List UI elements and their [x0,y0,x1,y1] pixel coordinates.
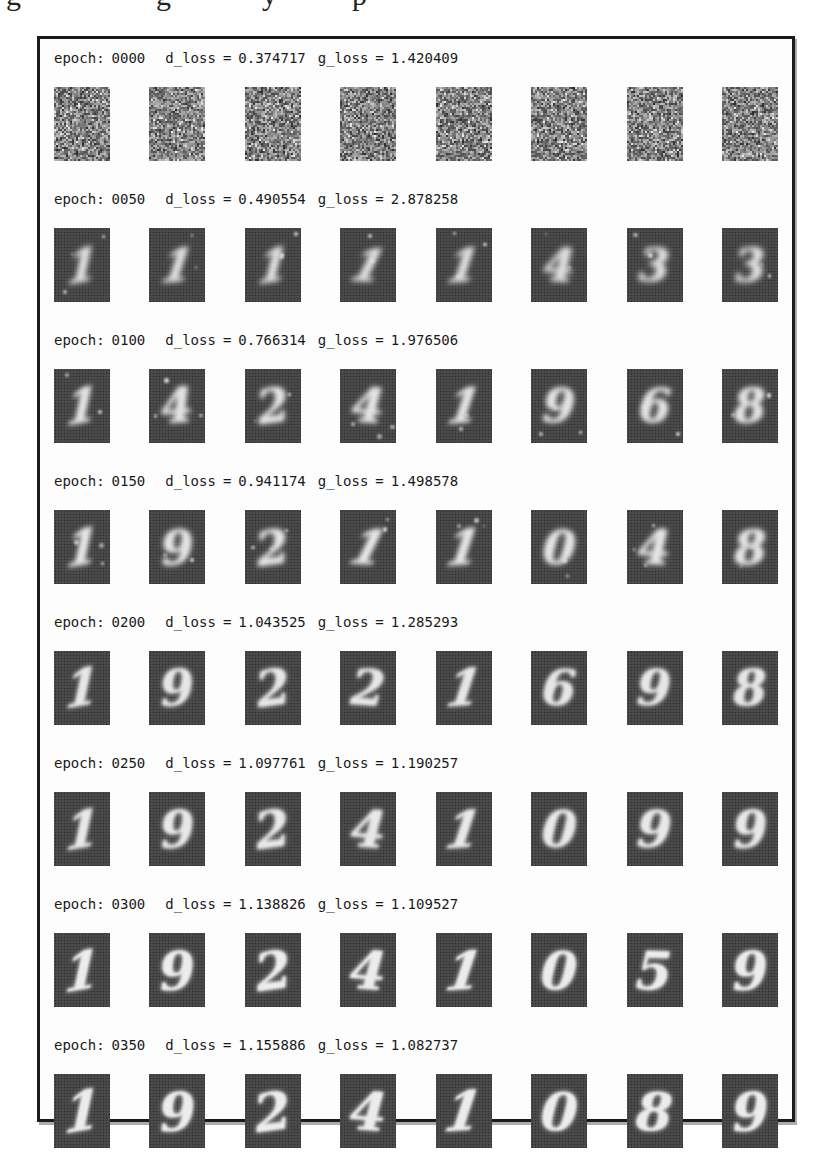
generated-digit-tile: 1 [436,651,492,725]
noise-speck [377,434,382,439]
generated-digit-tile: 1 [54,1074,110,1148]
equals-sign: = [375,755,383,771]
d-loss-value: 1.155886 [238,1037,305,1053]
generated-digit: 1 [441,938,486,1002]
generated-digit: 2 [349,658,387,718]
generated-digit-tile: 1 [54,933,110,1007]
equals-sign: = [223,896,231,912]
epoch-value: 0050 [112,191,146,207]
g-loss-value: 1.498578 [391,473,458,489]
noise-image [531,87,587,161]
generated-digit-tile: 8 [627,1074,683,1148]
generated-digit: 8 [635,1079,674,1142]
cropped-caption-fragment: p [352,0,367,12]
equals-sign: = [223,473,231,489]
generated-digit-tile: 9 [149,792,205,866]
d-loss-label: d_loss [165,896,216,912]
d-loss-label: d_loss [165,332,216,348]
g-loss-label: g_loss [318,191,369,207]
equals-sign: = [223,1037,231,1053]
equals-sign: = [375,473,383,489]
generated-digit-tile: 0 [531,510,587,584]
generated-digit: 9 [636,799,673,859]
generated-digit-tile: 4 [340,933,396,1007]
generated-digit-tile: 0 [531,933,587,1007]
noise-speck [483,525,485,527]
noise-speck [71,253,73,255]
generated-digit-tile: 6 [627,369,683,443]
generated-digit: 0 [539,939,578,1002]
g-loss-label: g_loss [318,50,369,66]
noise-speck [288,393,290,395]
epoch-section: epoch:0300d_loss=1.138826g_loss=1.109527… [52,896,780,1030]
noise-speck [648,253,653,258]
noise-speck [251,546,254,549]
d-loss-value: 0.374717 [238,50,305,66]
noise-speck [351,422,354,425]
generated-samples-row: 19221698 [52,651,780,725]
noise-image [149,87,205,161]
generated-digit: 3 [638,239,670,291]
epoch-section: epoch:0150d_loss=0.941174g_loss=1.498578… [52,473,780,607]
epoch-value: 0100 [112,332,146,348]
generated-digit: 1 [256,237,290,293]
noise-speck [633,548,635,550]
generated-digit-tile: 3 [627,228,683,302]
epoch-header: epoch:0150d_loss=0.941174g_loss=1.498578 [54,473,780,489]
epoch-value: 0000 [112,50,146,66]
generated-digit-tile: 1 [436,1074,492,1148]
generated-digit: 4 [348,1079,389,1143]
generated-digit-tile: 4 [627,510,683,584]
generated-digit-tile: 4 [340,792,396,866]
generated-digit-tile: 1 [340,510,396,584]
generated-digit: 6 [541,658,578,718]
epoch-section: epoch:0200d_loss=1.043525g_loss=1.285293… [52,614,780,748]
generated-digit-tile: 6 [531,651,587,725]
noise-sample-tile [149,87,205,161]
generated-digit-tile: 9 [722,933,778,1007]
generated-digit: 9 [157,1079,198,1143]
cropped-caption-fragment: y [262,0,277,12]
generated-digit-tile: 4 [531,228,587,302]
d-loss-value: 1.043525 [238,614,305,630]
generated-digit: 8 [731,658,768,718]
generated-digit-tile: 1 [54,651,110,725]
epoch-value: 0350 [112,1037,146,1053]
noise-sample-tile [627,87,683,161]
d-loss-value: 1.097761 [238,755,305,771]
noise-speck [101,562,104,565]
generated-digit-tile: 1 [436,228,492,302]
generated-digit-tile: 1 [340,228,396,302]
generated-digit: 1 [442,798,485,860]
generated-digit: 9 [731,799,769,860]
generated-digit: 9 [159,518,195,575]
generated-digit: 1 [64,655,100,720]
d-loss-label: d_loss [165,614,216,630]
generated-digit: 9 [636,658,672,717]
noise-speck [65,373,69,377]
cropped-caption: ggyp [0,0,828,13]
epoch-label: epoch: [54,1037,105,1053]
generated-digit-tile: 3 [722,228,778,302]
generated-digit: 9 [157,938,197,1001]
noise-speck [566,574,569,577]
generated-digit-tile: 9 [149,933,205,1007]
g-loss-value: 1.190257 [391,755,458,771]
generated-digit: 4 [542,239,575,292]
generated-samples-row: 19241099 [52,792,780,866]
noise-speck [545,233,547,235]
epoch-header: epoch:0100d_loss=0.766314g_loss=1.976506 [54,332,780,348]
g-loss-value: 1.976506 [391,332,458,348]
generated-samples-row: 14241968 [52,369,780,443]
generated-digit-tile: 4 [340,369,396,443]
generated-digit: 9 [730,1079,770,1143]
d-loss-value: 0.490554 [238,191,305,207]
generated-digit-tile: 1 [54,792,110,866]
epoch-label: epoch: [54,473,105,489]
g-loss-label: g_loss [318,755,369,771]
generated-digit: 1 [65,376,98,437]
epoch-header: epoch:0300d_loss=1.138826g_loss=1.109527 [54,896,780,912]
epoch-header: epoch:0200d_loss=1.043525g_loss=1.285293 [54,614,780,630]
noise-speck [368,234,372,238]
cropped-caption-fragment: g [6,0,21,12]
